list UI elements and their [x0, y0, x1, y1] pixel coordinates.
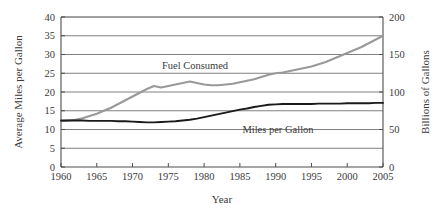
x-tick-label-1975: 1975 [158, 171, 179, 182]
y-tick-label-25: 25 [45, 68, 56, 79]
y-tick-label-10: 10 [45, 124, 56, 135]
fuel-consumed-annotation: Fuel Consumed [162, 60, 229, 71]
miles-per-gallon-annotation: Miles per Gallon [242, 124, 314, 135]
x-tick-label-1960: 1960 [51, 171, 72, 182]
y-tick-label-30: 30 [45, 49, 56, 60]
x-tick-label-1990: 1990 [265, 171, 286, 182]
y-tick-label-5: 5 [50, 143, 55, 154]
y-tick-label-40: 40 [45, 12, 56, 23]
fuel-economy-chart: 1960196519701975198019851990199520002005… [0, 0, 445, 210]
y-tick-label-15: 15 [45, 105, 56, 116]
y2-tick-label-0: 0 [389, 162, 394, 173]
x-tick-label-1965: 1965 [86, 171, 107, 182]
x-tick-label-2000: 2000 [337, 171, 358, 182]
y2-tick-label-100: 100 [389, 87, 405, 98]
y-tick-label-0: 0 [50, 162, 55, 173]
x-tick-label-1970: 1970 [122, 171, 143, 182]
x-tick-label-2005: 2005 [373, 171, 394, 182]
chart-container: 1960196519701975198019851990199520002005… [0, 0, 445, 210]
y2-axis-title: Billions of Gallons [419, 50, 431, 134]
x-tick-label-1995: 1995 [301, 171, 322, 182]
x-tick-label-1980: 1980 [194, 171, 215, 182]
y-tick-label-35: 35 [45, 30, 56, 41]
x-tick-label-1985: 1985 [229, 171, 250, 182]
y2-tick-label-50: 50 [389, 124, 400, 135]
y-tick-label-20: 20 [45, 87, 56, 98]
x-axis-title: Year [212, 193, 233, 205]
y2-tick-label-150: 150 [389, 49, 405, 60]
y2-tick-label-200: 200 [389, 12, 405, 23]
y-axis-title: Average Miles per Gallon [12, 35, 24, 149]
